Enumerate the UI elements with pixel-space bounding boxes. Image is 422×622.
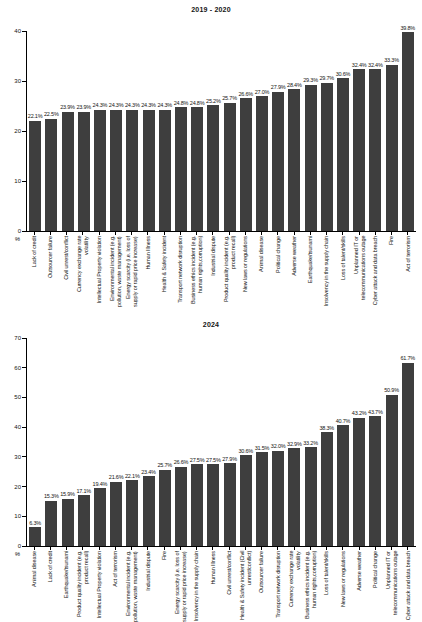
x-axis-category: Human Illness xyxy=(205,547,221,622)
x-axis-category-label: Political change xyxy=(275,236,282,273)
bar-slot: 27.9% xyxy=(221,457,237,546)
x-axis-category-label: Earthquake/tsunami xyxy=(63,551,70,598)
y-axis-tick: 10 xyxy=(14,178,26,185)
bar xyxy=(288,448,300,546)
x-axis-category-label: Loss of talent/skills xyxy=(340,236,347,280)
x-axis-tick-mark xyxy=(82,232,83,235)
x-axis-category-label: Intellectual Property violation xyxy=(96,236,103,303)
x-axis-tick-mark xyxy=(164,547,165,550)
x-axis-tick-mark xyxy=(261,547,262,550)
x-axis-category: Industrial dispute xyxy=(140,547,156,622)
bar-slot: 26.6% xyxy=(173,460,189,546)
y-axis-tick: 50 xyxy=(14,394,26,401)
bar-value-label: 24.3% xyxy=(109,103,124,109)
bar-slot: 32.4% xyxy=(351,63,367,232)
bar-slot: 25.7% xyxy=(157,463,173,546)
bar-slot: 40.7% xyxy=(335,419,351,546)
bar xyxy=(337,78,349,231)
x-axis-category-label: Fire xyxy=(161,551,168,560)
y-axis-tick-label: 50 xyxy=(14,394,21,400)
x-axis-category-label: Civil unrest/conflict xyxy=(226,551,233,595)
x-axis-category-label: Act of terrorism xyxy=(405,236,412,272)
x-axis-category-label: Earthquake/tsunami xyxy=(307,236,314,283)
bar-value-label: 33.3% xyxy=(384,58,399,64)
x-axis-tick-mark xyxy=(391,547,392,550)
x-axis-category-label: Energy scarcity (i.e. loss of supply or … xyxy=(125,236,138,308)
x-axis-category: Product quality incident (e.g. product r… xyxy=(221,232,237,308)
bar-slot: 24.3% xyxy=(124,103,140,231)
chart-2019-2020: 2019 - 2020 010203040% 22.1%22.5%23.9%23… xyxy=(0,0,422,311)
bar xyxy=(386,65,398,232)
x-axis-tick-mark xyxy=(34,232,35,235)
bar xyxy=(402,32,414,231)
x-axis-labels: Animal diseaseLack of creditEarthquake/t… xyxy=(26,547,416,622)
x-axis-category: Insolvency in the supply chain xyxy=(319,232,335,308)
bar-value-label: 50.9% xyxy=(384,388,399,394)
x-axis-category: Health & Safety incident xyxy=(156,232,172,308)
bar xyxy=(224,463,236,546)
y-axis-tick-label: 60 xyxy=(14,365,21,371)
x-axis-tick-mark xyxy=(34,547,35,550)
bar xyxy=(94,488,106,546)
bar xyxy=(143,110,155,232)
plot-area: 22.1%22.5%23.9%23.9%24.3%24.3%24.3%24.3%… xyxy=(26,31,416,232)
bar-slot: 32.4% xyxy=(367,63,383,232)
bar xyxy=(175,107,187,231)
x-axis-tick-mark xyxy=(229,232,230,235)
x-axis-category-label: Adverse weather xyxy=(291,236,298,276)
bar-value-label: 21.6% xyxy=(109,475,124,481)
x-axis-tick-mark xyxy=(407,232,408,235)
x-axis-tick-mark xyxy=(229,547,230,550)
x-axis-category-label: Environmental incident (e.g. pollution, … xyxy=(109,236,122,308)
bar xyxy=(240,455,252,546)
bar xyxy=(29,121,41,232)
bar xyxy=(78,112,90,232)
y-axis-tick-label: 40 xyxy=(14,424,21,430)
x-axis-category: Transport network disruption xyxy=(172,232,188,308)
x-axis-category-label: Insolvency in the supply chain xyxy=(193,551,200,621)
bar-slot: 39.8% xyxy=(400,26,416,232)
x-axis-tick-mark xyxy=(131,547,132,550)
bar-value-label: 22.1% xyxy=(28,114,43,120)
bar-slot: 61.7% xyxy=(400,356,416,546)
x-axis-category: Environmental incident (e.g. pollution, … xyxy=(107,232,123,308)
x-axis-tick-mark xyxy=(391,232,392,235)
bar-slot: 32.0% xyxy=(270,444,286,546)
bar xyxy=(353,69,365,231)
bar-value-label: 29.7% xyxy=(319,76,334,82)
bar xyxy=(110,110,122,232)
bar-value-label: 24.3% xyxy=(157,103,172,109)
x-axis-tick-mark xyxy=(180,547,181,550)
x-axis-category-label: Product quality incident (e.g. product r… xyxy=(76,551,89,622)
y-axis-tick: 10 xyxy=(14,513,26,520)
x-axis-category: Business ethics incident (e.g. human rig… xyxy=(302,547,318,622)
bar xyxy=(272,451,284,546)
x-axis-category: Loss of talent/skills xyxy=(319,547,335,622)
bar-slot: 25.7% xyxy=(221,96,237,231)
bar-slot: 24.3% xyxy=(92,103,108,231)
bar-value-label: 31.5% xyxy=(255,446,270,452)
x-axis-tick-mark xyxy=(99,547,100,550)
bar-slot: 24.3% xyxy=(140,103,156,231)
x-axis-category-label: Intellectual Property violation xyxy=(96,551,103,618)
x-axis-category-label: Energy scarcity (i.e. loss of supply or … xyxy=(174,551,187,622)
bar xyxy=(369,416,381,546)
bar-value-label: 25.7% xyxy=(157,463,172,469)
x-axis-category-label: Currency exchange rate volatility xyxy=(76,236,89,308)
bar xyxy=(272,92,284,232)
bar-slot: 28.4% xyxy=(286,83,302,232)
y-axis-tick-label: 0 xyxy=(18,543,21,549)
bar-value-label: 22.1% xyxy=(125,474,140,480)
bar xyxy=(45,501,57,546)
bar xyxy=(305,85,317,232)
x-axis-tick-mark xyxy=(375,547,376,550)
bar xyxy=(78,495,90,546)
bar-slot: 15.3% xyxy=(43,494,59,546)
x-axis-category: Animal disease xyxy=(254,232,270,308)
x-axis-tick-mark xyxy=(294,232,295,235)
y-axis: 010203040% xyxy=(8,31,26,231)
bar xyxy=(256,452,268,546)
bar-value-label: 61.7% xyxy=(400,356,415,362)
x-axis-tick-mark xyxy=(342,232,343,235)
bar xyxy=(402,363,414,546)
